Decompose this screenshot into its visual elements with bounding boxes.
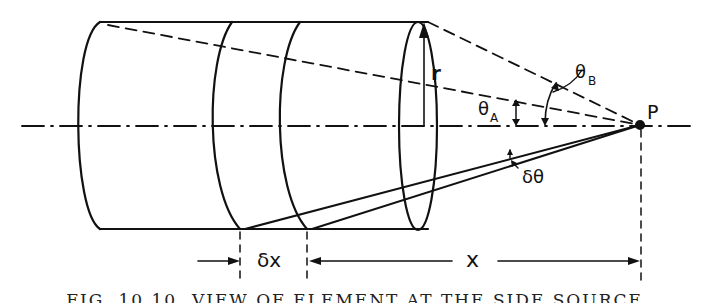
label-theta-a: θ [478,98,489,119]
point-p [636,121,644,129]
ray-slice-1 [245,125,640,229]
label-x: x [466,247,479,272]
label-delta-theta: δθ [522,166,544,187]
label-theta-a-sub: A [490,111,499,125]
radius-arrowhead [419,22,429,38]
ray-top-near [428,22,640,125]
label-point-p: P [647,101,658,123]
ray-slice-2 [312,125,640,229]
figure-caption: FIG. 10.10. VIEW OF ELEMENT AT THE SIDE … [0,290,709,303]
cylinder-diagram: r θ A θ B P δθ δx x [0,0,709,303]
label-theta-b: θ [575,61,586,82]
label-theta-b-sub: B [588,74,596,88]
ray-top-far [108,25,640,125]
label-radius: r [431,61,441,85]
label-delta-x: δx [257,248,281,272]
